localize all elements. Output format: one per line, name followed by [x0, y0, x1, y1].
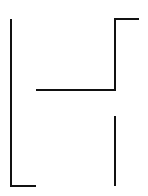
upper-right-step-line: [36, 19, 139, 90]
line-diagram: [0, 0, 148, 196]
left-bracket-line: [11, 19, 36, 186]
diagram-svg: [0, 0, 148, 196]
